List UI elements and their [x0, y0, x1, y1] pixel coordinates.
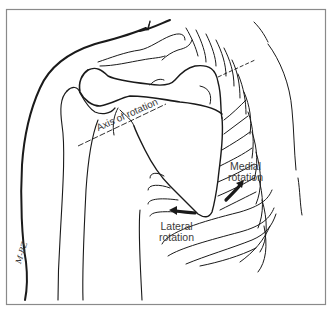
- lateral-label-line2: rotation: [159, 232, 194, 243]
- lateral-rotation-label: Lateral rotation: [159, 221, 194, 243]
- reference-dashed-line: [218, 60, 255, 77]
- medial-label-line2: rotation: [228, 172, 263, 183]
- back-outline: [254, 22, 268, 42]
- humerus-lateral: [58, 91, 67, 300]
- shoulder-outline: [21, 20, 170, 300]
- spine-line: [139, 210, 142, 300]
- figure-frame: [7, 10, 326, 305]
- anatomical-illustration: Axis of rotation Medial rotation Lateral…: [0, 0, 331, 310]
- acromion-upper: [88, 66, 222, 118]
- medial-rotation-label: Medial rotation: [228, 161, 263, 183]
- curved-arrow-up-right-icon: [226, 180, 244, 200]
- scapula: [134, 118, 223, 217]
- humerus-medial: [83, 120, 98, 300]
- humeral-head: [67, 87, 115, 113]
- shoulder-line-drawing: [0, 0, 331, 310]
